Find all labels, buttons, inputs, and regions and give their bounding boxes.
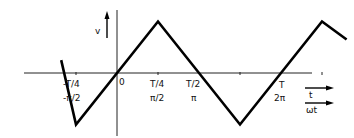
t-axis-label: t <box>309 90 313 100</box>
label-neg-T-quarter: -T/4 <box>63 79 80 89</box>
label-origin: 0 <box>119 77 125 87</box>
label-two-pi: 2π <box>274 93 286 103</box>
v-arrow-head <box>105 11 110 19</box>
label-T: T <box>278 80 285 90</box>
label-T-half: T/2 <box>185 79 200 89</box>
triangle-wave-diagram: v -T/4 -π/2 0 T/4 π/2 T/2 π T 2π t ωt <box>0 0 354 138</box>
omega-t-axis-label: ωt <box>306 105 318 115</box>
omega-t-arrow-head <box>326 101 334 106</box>
v-axis-label: v <box>95 26 101 36</box>
label-neg-pi-half: -π/2 <box>63 93 80 103</box>
label-pi: π <box>191 93 197 103</box>
label-pi-half: π/2 <box>150 93 164 103</box>
t-arrow-head <box>326 86 334 91</box>
label-T-quarter: T/4 <box>149 79 165 89</box>
